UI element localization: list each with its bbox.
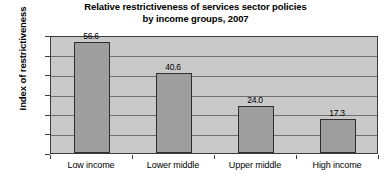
x-axis-tick-label: High income xyxy=(287,160,387,170)
chart-title-line-1: Relative restrictiveness of services sec… xyxy=(0,1,391,13)
x-axis-tick-mark xyxy=(50,155,51,159)
y-axis-title: Index of restrictiveness xyxy=(17,0,28,124)
bar-value-label: 17.3 xyxy=(307,109,367,118)
chart-title-line-2: by income groups, 2007 xyxy=(0,13,391,25)
x-axis-tick-mark xyxy=(296,155,297,159)
bar xyxy=(238,106,274,153)
bar-value-label: 40.6 xyxy=(143,63,203,72)
x-axis-tick-mark xyxy=(214,155,215,159)
bar-value-label: 24.0 xyxy=(225,96,285,105)
bar xyxy=(156,73,192,153)
bar-value-label: 56.6 xyxy=(61,32,121,41)
bar-chart: Relative restrictiveness of services sec… xyxy=(0,0,391,196)
chart-title: Relative restrictiveness of services sec… xyxy=(0,1,391,24)
plot-area xyxy=(50,36,378,154)
bar xyxy=(74,42,110,153)
bar xyxy=(320,119,356,153)
x-axis-tick-mark xyxy=(132,155,133,159)
x-axis-tick-mark xyxy=(378,155,379,159)
